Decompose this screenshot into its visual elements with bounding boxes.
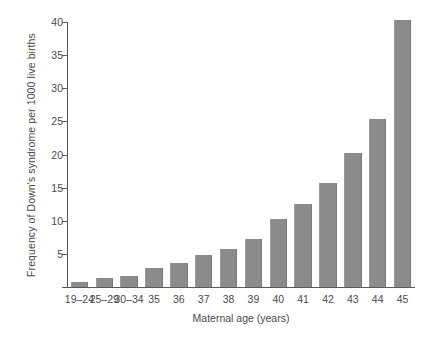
y-tick-label: 20 (51, 148, 63, 162)
y-tick-label: 25 (51, 114, 63, 128)
y-axis-line (67, 22, 68, 288)
y-tick-label: 40 (51, 15, 63, 29)
bar (71, 282, 88, 287)
plot-area: 510152025303540 19–2425–2930–34353637383… (67, 22, 415, 288)
x-axis-title: Maternal age (years) (67, 312, 415, 324)
bar (220, 249, 237, 287)
y-tick-label: 15 (51, 181, 63, 195)
bar (319, 183, 336, 287)
y-axis-title: Frequency of Down's syndrome per 1000 li… (22, 10, 40, 300)
bar (294, 204, 311, 287)
bar (369, 119, 386, 287)
bar (170, 263, 187, 288)
bar (96, 278, 113, 287)
bar (270, 219, 287, 287)
x-axis-line (67, 287, 415, 288)
chart-figure: Frequency of Down's syndrome per 1000 li… (0, 0, 427, 345)
x-tick-label: 45 (386, 292, 419, 306)
y-tick-mark (62, 287, 67, 288)
bar (145, 268, 162, 287)
bar (344, 153, 361, 287)
y-tick-label: 10 (51, 214, 63, 228)
bar (195, 255, 212, 287)
bar (394, 20, 411, 287)
y-tick-label: 35 (51, 48, 63, 62)
bar (120, 276, 137, 287)
bar (245, 239, 262, 287)
y-tick-label: 5 (57, 247, 63, 261)
y-tick-label: 30 (51, 81, 63, 95)
